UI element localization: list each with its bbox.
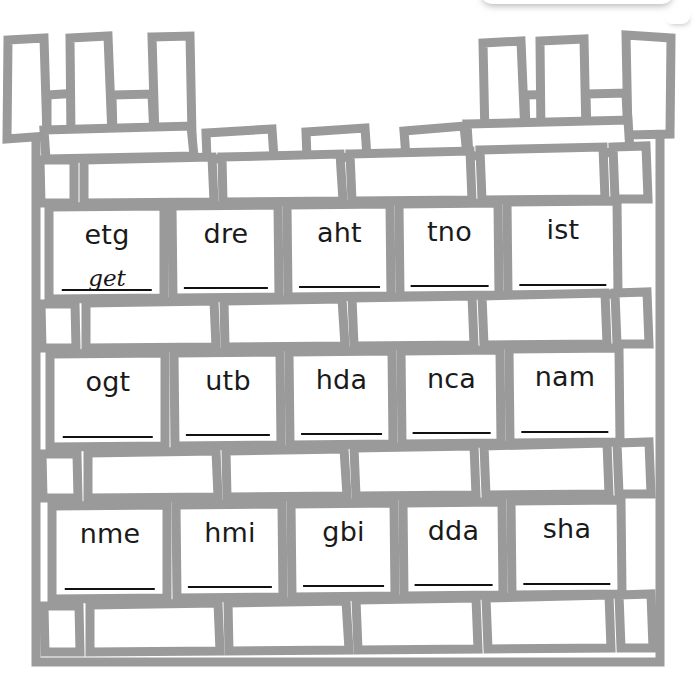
answer-slot[interactable]: [63, 408, 153, 438]
word-card[interactable]: hda: [289, 352, 394, 444]
brick-course-bottom: [44, 594, 653, 652]
scrambled-word: ogt: [86, 368, 131, 395]
scrambled-word: aht: [317, 219, 362, 246]
answer-line: [186, 434, 270, 436]
answer-line: [523, 583, 610, 585]
scrambled-word: hmi: [204, 519, 256, 546]
word-card[interactable]: etg get: [49, 207, 165, 300]
word-card[interactable]: dre: [172, 206, 280, 298]
word-card[interactable]: tno: [399, 204, 500, 296]
word-card[interactable]: ogt: [50, 354, 166, 447]
word-card[interactable]: aht: [287, 205, 392, 297]
answer-slot[interactable]: [519, 256, 606, 286]
scrambled-word: utb: [205, 367, 250, 394]
answer-line: [65, 588, 155, 590]
answer-line: [301, 433, 383, 435]
scrambled-word: sha: [543, 515, 591, 542]
word-card[interactable]: dda: [403, 503, 504, 595]
answer-slot[interactable]: [303, 557, 385, 587]
word-card[interactable]: nam: [509, 349, 621, 442]
answer-slot[interactable]: [65, 560, 155, 590]
scrambled-word: ist: [547, 216, 580, 243]
answer-line: [63, 436, 153, 438]
brick-course-a: [40, 146, 648, 203]
scrambled-word: nme: [80, 520, 141, 547]
answer-text: get: [88, 267, 126, 291]
word-card[interactable]: ist: [507, 202, 619, 295]
scrambled-word: etg: [85, 221, 130, 248]
answer-line: [519, 284, 606, 286]
answer-slot[interactable]: [521, 403, 608, 433]
answer-line: [414, 584, 493, 586]
answer-slot[interactable]: [301, 405, 383, 435]
word-card[interactable]: nme: [52, 506, 168, 599]
answer-line: [299, 286, 381, 288]
answer-slot[interactable]: [188, 558, 272, 588]
answer-slot[interactable]: [299, 258, 381, 288]
answer-slot[interactable]: [523, 555, 610, 585]
scrambled-word: dre: [204, 220, 249, 247]
brick-course-c: [42, 442, 651, 498]
scrambled-word: tno: [427, 218, 472, 245]
answer-slot[interactable]: [184, 259, 268, 289]
answer-line: [188, 586, 272, 588]
scrambled-word: nam: [535, 363, 596, 390]
word-card[interactable]: gbi: [291, 504, 396, 596]
scrambled-word: hda: [316, 366, 367, 393]
answer-slot[interactable]: [186, 406, 270, 436]
word-card[interactable]: nca: [401, 351, 502, 443]
brick-course-b: [41, 292, 649, 348]
answer-line: [410, 285, 489, 287]
scrambled-word: nca: [427, 365, 476, 392]
scrambled-word: gbi: [322, 518, 364, 545]
worksheet-page: etg get dre aht tno: [0, 0, 696, 675]
answer-line: [521, 431, 608, 433]
answer-slot[interactable]: [410, 257, 489, 287]
answer-line: [303, 585, 385, 587]
answer-line: [412, 432, 491, 434]
scrambled-word: dda: [428, 517, 479, 544]
word-card[interactable]: sha: [511, 501, 623, 594]
answer-slot[interactable]: [412, 404, 491, 434]
answer-slot[interactable]: [414, 556, 493, 586]
word-card[interactable]: hmi: [176, 505, 284, 597]
answer-line: [184, 287, 268, 289]
answer-slot[interactable]: get: [62, 261, 152, 291]
word-card[interactable]: utb: [174, 353, 282, 445]
